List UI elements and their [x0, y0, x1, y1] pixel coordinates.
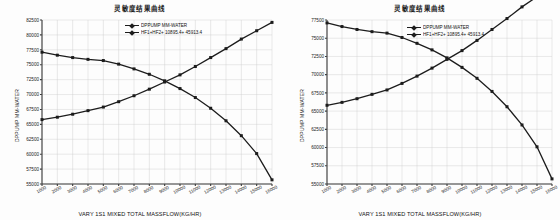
- x-tick-label: 5000: [381, 185, 393, 194]
- x-tick-label: 4000: [366, 185, 378, 194]
- data-point: [71, 113, 74, 116]
- data-point: [102, 59, 105, 62]
- data-point: [356, 97, 359, 100]
- data-point: [87, 58, 90, 61]
- series-line-0: [42, 52, 272, 180]
- y-tick-label: 75000: [311, 36, 324, 41]
- data-point: [240, 134, 243, 137]
- x-tick-label: 3000: [351, 185, 363, 194]
- data-point: [179, 87, 182, 90]
- data-point: [371, 93, 374, 96]
- data-point: [56, 116, 59, 119]
- data-point: [209, 56, 212, 59]
- data-point: [255, 29, 258, 32]
- series-line-1: [42, 22, 272, 119]
- chart-sheet: 灵敏度结果曲线 55000575006000062500650006750070…: [0, 0, 560, 220]
- data-point: [401, 36, 404, 39]
- data-point: [386, 88, 389, 91]
- y-axis-title-right: DPPUMP MM-WATER: [299, 89, 305, 142]
- x-tick-label: 2000: [51, 185, 63, 194]
- data-point: [341, 101, 344, 104]
- data-point: [446, 58, 449, 61]
- y-tick-label: 60000: [26, 152, 39, 157]
- legend-item-hf: HF1+HF2+ 10895.4+ 45913.4: [407, 31, 484, 38]
- data-point: [536, 145, 539, 148]
- data-point: [41, 118, 44, 121]
- y-tick-label: 82500: [26, 18, 39, 23]
- y-tick-label: 60000: [311, 145, 324, 150]
- legend-left: DPPUMP MM-WATER HF1+HF2+ 10895.4+ 45913.…: [125, 22, 202, 36]
- data-point: [71, 56, 74, 59]
- y-tick-label: 70000: [26, 92, 39, 97]
- data-point: [326, 104, 329, 107]
- y-tick-label: 67500: [311, 91, 324, 96]
- legend-marker-icon: [407, 25, 421, 30]
- data-point: [416, 42, 419, 45]
- x-tick-label: 8000: [426, 185, 438, 194]
- y-tick-label: 65000: [26, 122, 39, 127]
- data-point: [521, 123, 524, 126]
- data-point: [163, 81, 166, 84]
- y-tick-label: 80000: [26, 33, 39, 38]
- data-point: [371, 30, 374, 33]
- data-point: [386, 32, 389, 35]
- data-point: [416, 75, 419, 78]
- legend-label: HF1+HF2+ 10895.4+ 45913.4: [141, 29, 202, 36]
- chart-panel-left: 灵敏度结果曲线 55000575006000062500650006750070…: [0, 0, 280, 220]
- data-point: [506, 17, 509, 20]
- y-tick-label: 57500: [26, 167, 39, 172]
- data-point: [194, 96, 197, 99]
- x-tick-label: 9000: [441, 185, 453, 194]
- data-point: [461, 49, 464, 52]
- data-point: [209, 107, 212, 110]
- data-point: [225, 119, 228, 122]
- data-point: [133, 94, 136, 97]
- x-tick-label: 4000: [82, 185, 94, 194]
- y-tick-label: 62500: [311, 127, 324, 132]
- x-tick-label: 7000: [411, 185, 423, 194]
- y-tick-label: 72500: [311, 54, 324, 59]
- data-point: [102, 106, 105, 109]
- legend-right: DPPUMP MM-WATER HF1+HF2+ 10895.4+ 45913.…: [407, 24, 484, 38]
- x-tick-label: 6000: [396, 185, 408, 194]
- series-line-1: [327, 0, 552, 105]
- y-tick-label: 62500: [26, 137, 39, 142]
- chart-panel-right: 灵敏度结果曲线 55000575006000062500650006750070…: [280, 0, 560, 220]
- x-tick-label: 3000: [66, 185, 78, 194]
- y-tick-label: 75000: [26, 62, 39, 67]
- y-tick-label: 57500: [311, 163, 324, 168]
- data-point: [179, 73, 182, 76]
- y-tick-label: 55000: [311, 182, 324, 187]
- data-point: [194, 65, 197, 68]
- data-point: [148, 73, 151, 76]
- data-point: [87, 109, 90, 112]
- x-axis-title-left: VARY 1S1 MIXED TOTAL MASSFLOW(KG/HR): [0, 211, 280, 217]
- y-tick-label: 55000: [26, 182, 39, 187]
- y-tick-label: 67500: [26, 107, 39, 112]
- data-point: [271, 178, 274, 181]
- series-line-0: [327, 23, 552, 179]
- data-point: [551, 177, 554, 180]
- x-tick-label: 2000: [336, 185, 348, 194]
- y-tick-label: 72500: [26, 77, 39, 82]
- y-axis-title-left: DPPUMP MM-WATER: [14, 89, 20, 142]
- legend-marker-icon: [407, 32, 421, 37]
- y-tick-label: 77500: [311, 18, 324, 23]
- x-tick-label: 5000: [97, 185, 109, 194]
- data-point: [491, 28, 494, 31]
- data-point: [461, 66, 464, 69]
- data-point: [356, 28, 359, 31]
- data-point: [341, 25, 344, 28]
- data-point: [133, 67, 136, 70]
- legend-item-hf: HF1+HF2+ 10895.4+ 45913.4: [125, 29, 202, 36]
- data-point: [271, 21, 274, 24]
- data-point: [476, 77, 479, 80]
- data-point: [491, 90, 494, 93]
- y-tick-label: 70000: [311, 72, 324, 77]
- legend-label: HF1+HF2+ 10895.4+ 45913.4: [423, 31, 484, 38]
- data-point: [506, 105, 509, 108]
- data-point: [240, 38, 243, 41]
- data-point: [326, 21, 329, 24]
- data-point: [431, 67, 434, 70]
- x-tick-label: 7000: [128, 185, 140, 194]
